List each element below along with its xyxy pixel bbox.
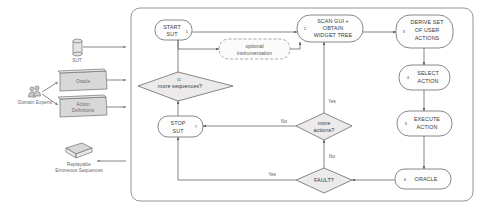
decision-more-sequences[interactable]: more sequences? 11 bbox=[138, 72, 233, 101]
node-start-sut[interactable]: START SUT 1 bbox=[155, 20, 192, 40]
node-stop-sut-line-1: STOP bbox=[171, 120, 186, 126]
node-derive-actions-line-2: OF USER bbox=[415, 27, 440, 33]
node-oracle[interactable]: ORACLE 6 bbox=[395, 169, 451, 189]
artifact-action-definitions: Action Definitions bbox=[58, 95, 107, 117]
node-start-sut-line-2: SUT bbox=[166, 31, 178, 37]
flowchart-svg: SUT Oracle Action Definitions Domain Exp… bbox=[0, 0, 482, 211]
flow-edges bbox=[178, 25, 424, 180]
node-derive-actions-line-1: DERIVE SET bbox=[410, 19, 444, 25]
edge-label-fault-no: No bbox=[329, 154, 335, 159]
edge-label-more-actions-no: No bbox=[281, 119, 287, 124]
node-scan-gui[interactable]: SCAN GUI + OBTAIN WIDGET TREE 2 bbox=[297, 15, 363, 42]
node-scan-gui-line-3: WIDGET TREE bbox=[314, 32, 353, 38]
artifact-oracle-label: Oracle bbox=[76, 79, 90, 84]
diagram-canvas: SUT Oracle Action Definitions Domain Exp… bbox=[0, 0, 482, 211]
decision-more-sequences-number: 11 bbox=[177, 77, 182, 82]
node-stop-sut[interactable]: STOP SUT 7 bbox=[158, 116, 203, 137]
decision-fault-label: FAULT? bbox=[314, 177, 334, 183]
domain-experts-icon bbox=[29, 86, 41, 97]
node-execute-action[interactable]: EXECUTE ACTION 5 bbox=[397, 111, 452, 136]
node-start-sut-line-1: START bbox=[163, 24, 181, 30]
node-execute-action-line-1: EXECUTE bbox=[414, 116, 440, 122]
artifact-action-definitions-label-2: Definitions bbox=[72, 108, 95, 113]
node-oracle-label: ORACLE bbox=[415, 176, 438, 182]
node-stop-sut-line-2: SUT bbox=[172, 128, 184, 134]
node-select-action-line-2: ACTION bbox=[418, 78, 439, 84]
node-execute-action-line-2: ACTION bbox=[417, 124, 438, 130]
artifact-replayable-sequences: Replayable Erroneous Sequences bbox=[55, 143, 103, 173]
artifact-replayable-label-1: Replayable bbox=[67, 162, 91, 167]
node-optional-instrumentation[interactable]: optional instrumentation bbox=[219, 39, 290, 59]
decision-more-sequences-label: more sequences? bbox=[158, 83, 202, 89]
edge-label-more-actions-yes: Yes bbox=[328, 99, 336, 104]
artifact-action-definitions-label-1: Action bbox=[76, 102, 90, 107]
artifact-sut-label: SUT bbox=[72, 58, 82, 63]
decision-more-actions-line-1: more bbox=[318, 120, 331, 126]
decision-more-actions[interactable]: more actions? bbox=[296, 113, 352, 140]
decision-fault[interactable]: FAULT? bbox=[296, 168, 352, 193]
node-select-action[interactable]: SELECT ACTION 4 bbox=[399, 65, 450, 90]
node-derive-actions[interactable]: DERIVE SET OF USER ACTIONS 3 bbox=[396, 15, 453, 48]
artifact-sut: SUT bbox=[72, 39, 82, 63]
artifact-oracle: Oracle bbox=[58, 69, 107, 91]
domain-experts-label: Domain Experts bbox=[18, 100, 53, 105]
node-derive-actions-line-3: ACTIONS bbox=[415, 35, 440, 41]
node-select-action-line-1: SELECT bbox=[417, 70, 439, 76]
artifact-replayable-label-2: Erroneous Sequences bbox=[55, 168, 103, 173]
node-scan-gui-line-1: SCAN GUI + bbox=[317, 18, 349, 24]
edge-label-fault-yes: Yes bbox=[268, 172, 276, 177]
node-scan-gui-line-2: OBTAIN bbox=[323, 25, 343, 31]
optional-instrumentation-line-2: instrumentation bbox=[237, 50, 273, 56]
decision-more-actions-line-2: actions? bbox=[314, 127, 335, 133]
optional-instrumentation-line-1: optional bbox=[245, 43, 263, 49]
